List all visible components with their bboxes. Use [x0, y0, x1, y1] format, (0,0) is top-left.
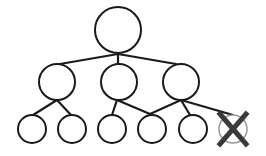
edge-mid-right-to-leaf-4: [150, 100, 181, 114]
edge-mid-left-to-leaf-2: [57, 100, 71, 115]
edge-mid-center-to-leaf-3: [112, 100, 117, 115]
edge-mid-center-to-leaf-4: [117, 100, 150, 114]
tree-diagram: [0, 0, 266, 156]
tree-nodes: [18, 7, 247, 143]
tree-node-mid-left: [39, 64, 75, 100]
edge-root-to-mid-right: [118, 54, 176, 64]
tree-node-mid-right: [163, 64, 199, 100]
tree-node-leaf-4: [138, 115, 166, 143]
tree-diagram-svg: [0, 0, 266, 156]
tree-node-leaf-2: [58, 115, 86, 143]
edge-root-to-mid-left: [60, 54, 118, 64]
edge-mid-left-to-leaf-1: [33, 100, 57, 115]
tree-node-leaf-1: [18, 115, 46, 143]
tree-node-mid-center: [101, 64, 137, 100]
tree-node-leaf-5: [179, 115, 207, 143]
tree-node-root: [95, 7, 141, 53]
tree-node-leaf-3: [98, 115, 126, 143]
